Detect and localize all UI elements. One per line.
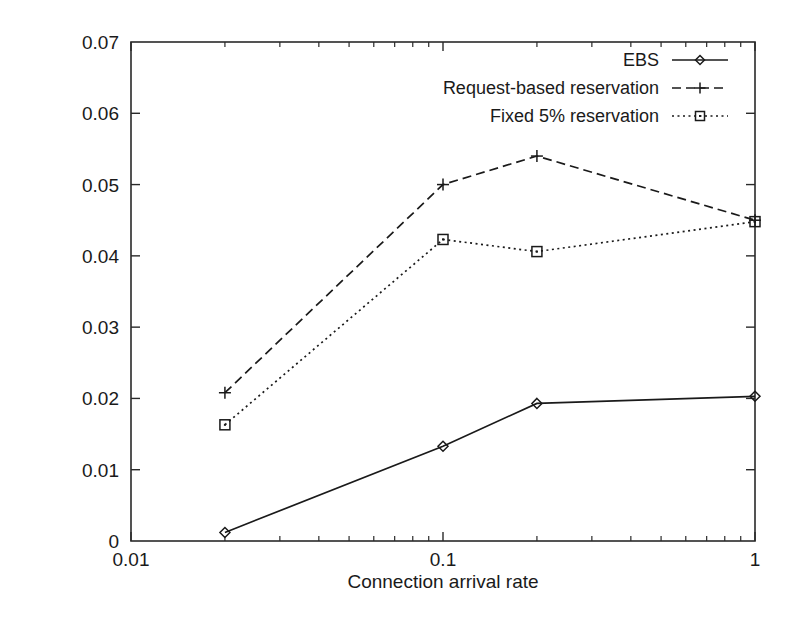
marker-square-center — [536, 251, 538, 253]
marker-square-center — [224, 424, 226, 426]
y-tick-label: 0.02 — [82, 388, 119, 409]
marker-square-center — [442, 238, 444, 240]
y-tick-label: 0.04 — [82, 246, 119, 267]
y-tick-label: 0.05 — [82, 175, 119, 196]
y-tick-label: 0.07 — [82, 32, 119, 53]
marker-square-center — [754, 221, 756, 223]
x-tick-label: 0.1 — [430, 549, 456, 570]
chart-container: 0.010.11 00.010.020.030.040.050.060.07 C… — [0, 0, 787, 622]
y-tick-label: 0 — [108, 531, 119, 552]
legend-label-1: EBS — [623, 50, 659, 70]
x-tick-label: 0.01 — [113, 549, 150, 570]
y-tick-label: 0.01 — [82, 460, 119, 481]
x-tick-label: 1 — [750, 549, 761, 570]
x-axis-title: Connection arrival rate — [347, 571, 538, 592]
y-tick-label: 0.06 — [82, 103, 119, 124]
chart-background — [0, 0, 787, 622]
y-tick-label: 0.03 — [82, 317, 119, 338]
legend-label-3: Fixed 5% reservation — [490, 106, 659, 126]
line-chart: 0.010.11 00.010.020.030.040.050.060.07 C… — [0, 0, 787, 622]
legend-label-2: Request-based reservation — [443, 78, 659, 98]
marker-square-center — [699, 115, 701, 117]
